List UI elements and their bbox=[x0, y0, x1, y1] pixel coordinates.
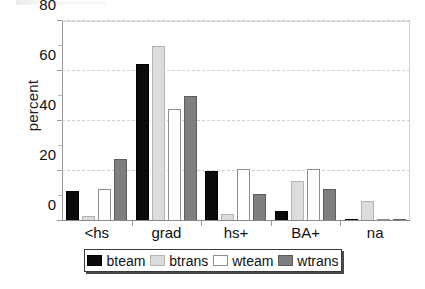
x-tick-label: na bbox=[340, 224, 410, 241]
legend-label: bteam bbox=[106, 253, 145, 269]
dark-gray-swatch bbox=[278, 255, 293, 266]
bar bbox=[136, 64, 149, 222]
bar bbox=[307, 169, 320, 222]
bar-group bbox=[201, 21, 271, 221]
bar bbox=[291, 181, 304, 221]
chart-legend: bteambtranswteamwtrans bbox=[84, 249, 342, 272]
y-tick-label-20: 20 bbox=[39, 146, 56, 163]
white-swatch bbox=[213, 255, 228, 266]
bar-group bbox=[62, 21, 132, 221]
bar bbox=[205, 171, 218, 221]
legend-label: btrans bbox=[169, 253, 208, 269]
bar-group bbox=[132, 21, 202, 221]
bar-group bbox=[271, 21, 341, 221]
x-tick-label: grad bbox=[132, 224, 202, 241]
bar bbox=[361, 201, 374, 221]
legend-label: wteam bbox=[232, 253, 273, 269]
scan-artifact bbox=[16, 0, 40, 5]
legend-item: wteam bbox=[213, 253, 273, 269]
legend-label: wtrans bbox=[297, 253, 338, 269]
bar bbox=[152, 46, 165, 221]
y-tick-label-40: 40 bbox=[39, 96, 56, 113]
bar bbox=[98, 189, 111, 222]
y-tick-label-60: 60 bbox=[39, 46, 56, 63]
bar bbox=[253, 194, 266, 222]
legend-item: wtrans bbox=[278, 253, 338, 269]
y-axis-title: percent bbox=[24, 41, 41, 171]
bar-chart: percent 020406080 <hsgradhs+BA+na bteamb… bbox=[0, 0, 425, 289]
bar bbox=[168, 109, 181, 222]
bar bbox=[237, 169, 250, 222]
bar bbox=[323, 189, 336, 222]
legend-item: bteam bbox=[87, 253, 145, 269]
y-tick-label-80: 80 bbox=[39, 0, 56, 13]
x-tick-label: hs+ bbox=[201, 224, 271, 241]
x-tick-label: <hs bbox=[62, 224, 132, 241]
bar bbox=[66, 191, 79, 221]
black-swatch bbox=[87, 255, 102, 266]
legend-item: btrans bbox=[150, 253, 208, 269]
plot-area: 020406080 bbox=[62, 21, 410, 221]
x-axis-labels: <hsgradhs+BA+na bbox=[62, 224, 410, 241]
y-tick-label-0: 0 bbox=[48, 196, 56, 213]
x-axis-line bbox=[62, 220, 410, 221]
bar-groups bbox=[62, 21, 410, 221]
bar bbox=[184, 96, 197, 221]
bar bbox=[114, 159, 127, 222]
x-tick-label: BA+ bbox=[271, 224, 341, 241]
bar-group bbox=[340, 21, 410, 221]
light-gray-swatch bbox=[150, 255, 165, 266]
